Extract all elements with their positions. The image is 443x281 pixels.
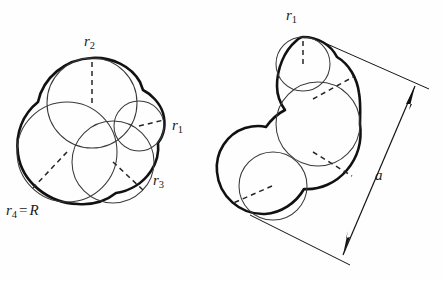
left-figure-group: r2 r1 r3 r4=R bbox=[6, 33, 183, 220]
right-inner-circle-middle bbox=[276, 82, 360, 166]
left-label-r3: r3 bbox=[153, 172, 164, 190]
right-radius-dash-bottom bbox=[231, 186, 272, 204]
left-label-r2: r2 bbox=[84, 33, 95, 51]
left-radius-dash-r1 bbox=[139, 120, 164, 126]
left-label-r4: r4=R bbox=[6, 202, 39, 220]
right-label-r1: r1 bbox=[286, 7, 297, 25]
right-label-a: a bbox=[375, 167, 383, 183]
left-radius-dash-r3 bbox=[113, 162, 143, 190]
right-radius-dash-middle-upper bbox=[313, 77, 353, 99]
right-dimension-arrow-upper bbox=[406, 86, 415, 110]
right-figure-group: r1 a bbox=[217, 7, 429, 265]
figure-canvas: r2 r1 r3 r4=R bbox=[0, 0, 443, 281]
right-envelope-path bbox=[217, 37, 361, 214]
right-extension-line-bottom bbox=[250, 215, 350, 265]
left-label-r1: r1 bbox=[172, 117, 183, 135]
right-extension-line-top bbox=[318, 40, 429, 89]
right-inner-circle-bottom bbox=[239, 152, 307, 220]
left-radius-dash-r4 bbox=[33, 152, 67, 188]
left-figure-svg: r2 r1 r3 r4=R bbox=[0, 0, 443, 281]
right-dimension-arrow-lower bbox=[343, 231, 350, 255]
